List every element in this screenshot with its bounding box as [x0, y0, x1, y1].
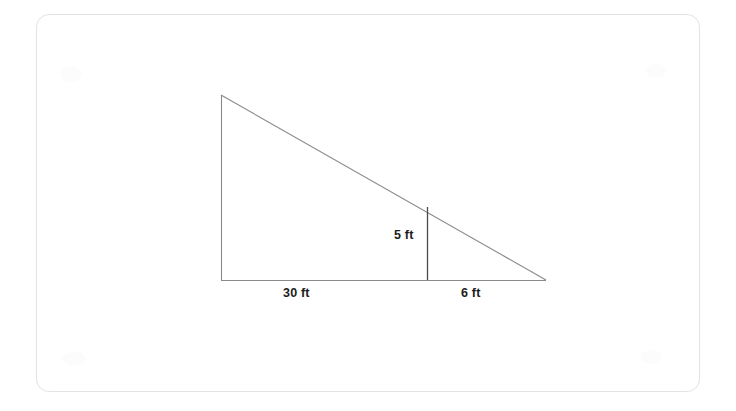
dimension-label-height: 5 ft — [394, 229, 414, 242]
triangle-figure — [0, 0, 736, 411]
screenshot-root: 5 ft 30 ft 6 ft — [0, 0, 736, 411]
triangle-hypotenuse — [221, 95, 546, 280]
dimension-label-base-left: 30 ft — [283, 287, 310, 300]
dimension-label-base-right: 6 ft — [461, 287, 481, 300]
